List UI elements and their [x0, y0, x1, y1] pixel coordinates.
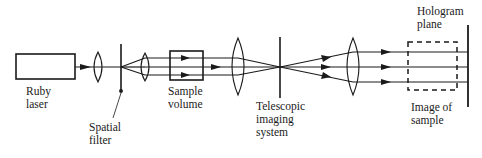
telescopic-system-label: Telescopic imaging system	[256, 100, 305, 139]
label-line: Spatial	[89, 121, 121, 134]
label-line: plane	[417, 18, 464, 31]
label-line: Image of	[411, 101, 452, 114]
label-line: imaging	[256, 113, 305, 126]
ruby-laser-box	[16, 54, 75, 79]
sample-volume-label: Sample volume	[168, 85, 203, 111]
label-line: laser	[26, 98, 51, 111]
label-line: Ruby	[26, 85, 51, 98]
spatial-filter-leader	[113, 93, 121, 118]
label-line: Sample	[168, 85, 203, 98]
label-line: system	[256, 126, 305, 139]
ruby-laser-label: Ruby laser	[26, 85, 51, 111]
label-line: Hologram	[417, 5, 464, 18]
label-line: volume	[168, 98, 203, 111]
label-line: sample	[411, 114, 452, 127]
image-of-sample-label: Image of sample	[411, 101, 452, 127]
image-of-sample-box	[408, 42, 457, 90]
optical-diagram	[0, 0, 482, 158]
spatial-filter-label: Spatial filter	[89, 121, 121, 147]
hologram-plane-label: Hologram plane	[417, 5, 464, 31]
label-line: Telescopic	[256, 100, 305, 113]
label-line: filter	[89, 134, 121, 147]
